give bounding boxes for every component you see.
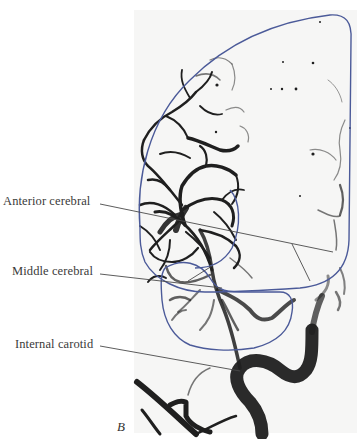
- angiogram-figure: Anterior cerebral Middle cerebral Intern…: [0, 0, 357, 439]
- panel-letter: B: [117, 419, 125, 435]
- vessel-dots: [215, 21, 351, 197]
- anterior-cerebral-territory-outline: [139, 15, 351, 292]
- angiogram-drawing: [0, 0, 357, 439]
- label-anterior-cerebral: Anterior cerebral: [3, 194, 90, 209]
- label-middle-cerebral: Middle cerebral: [12, 264, 93, 279]
- label-internal-carotid: Internal carotid: [15, 337, 93, 352]
- anterior-cerebral-leader: [100, 204, 333, 252]
- anterior-cerebral-leader-branch: [292, 244, 310, 281]
- vessels: [137, 58, 345, 434]
